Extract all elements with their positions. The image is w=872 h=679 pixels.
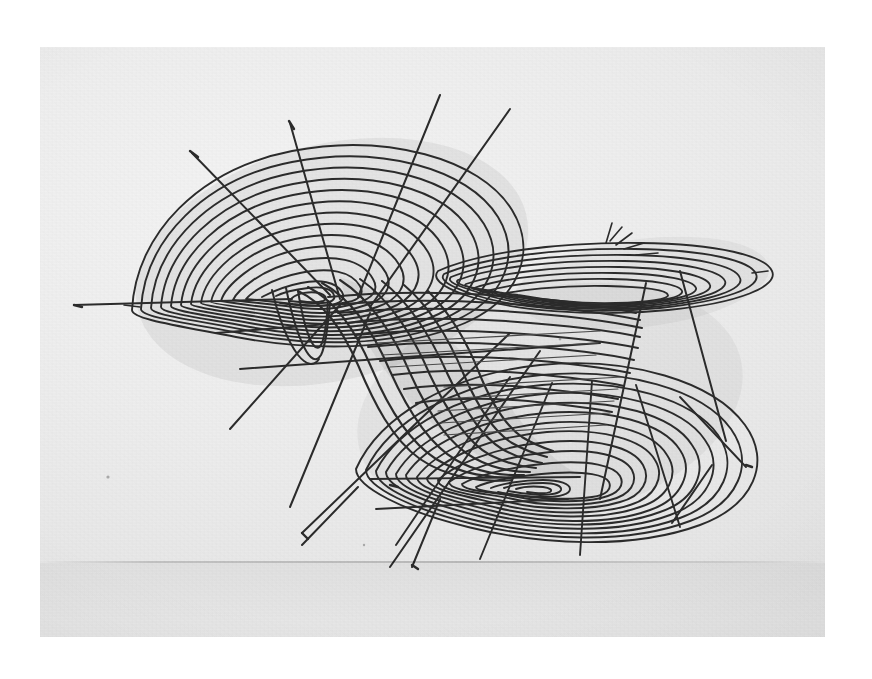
paper-grain-texture [40, 47, 825, 637]
paper-sheet [40, 47, 825, 637]
paper-crease-line [40, 561, 825, 563]
photo-canvas [0, 0, 872, 679]
paper-crease-band [40, 563, 825, 621]
